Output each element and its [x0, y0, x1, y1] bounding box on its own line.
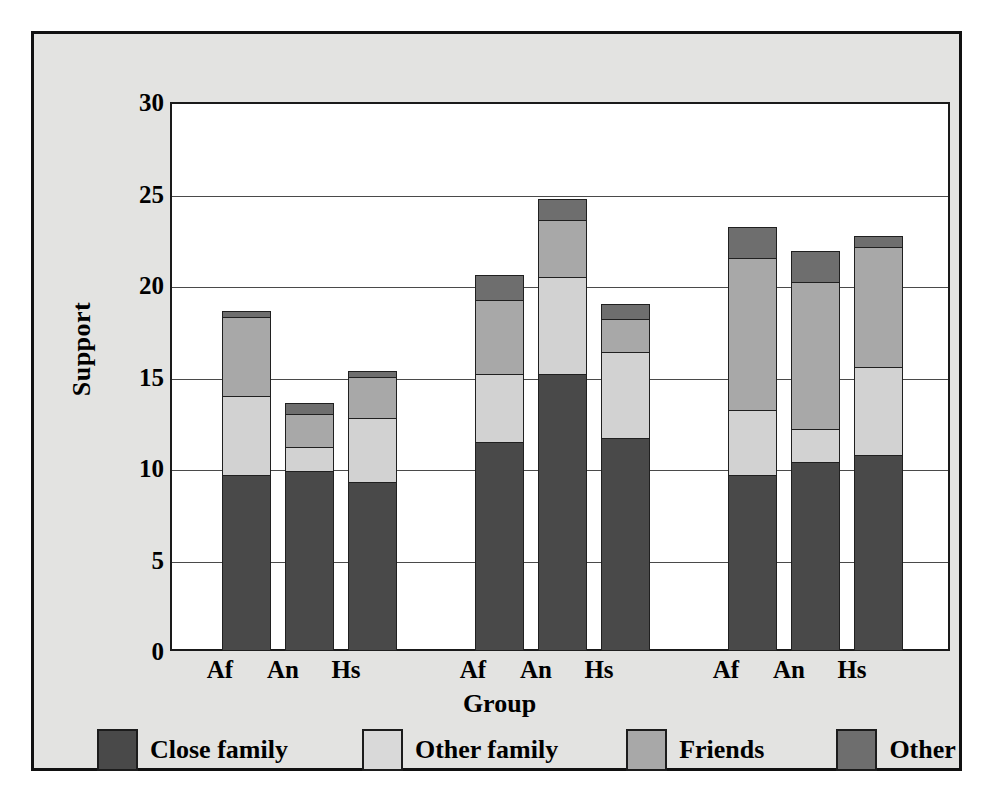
segment-close-family — [538, 374, 587, 650]
segment-other — [475, 275, 524, 302]
segment-close-family — [854, 455, 903, 651]
bar-age14-an[interactable] — [791, 251, 840, 649]
segment-other-family — [601, 352, 650, 440]
legend-label-friends: Friends — [679, 735, 764, 765]
segment-other-family — [475, 374, 524, 444]
x-tick-age7-an: An — [253, 656, 313, 684]
segment-friends — [728, 258, 777, 412]
x-tick-age10-hs: Hs — [569, 656, 629, 684]
bar-age7-an[interactable] — [285, 403, 334, 649]
segment-close-family — [222, 475, 271, 651]
figure-frame: Support 30 25 20 15 10 5 0 Age 7 Age 10 … — [31, 31, 962, 771]
segment-close-family — [285, 471, 334, 650]
segment-friends — [791, 282, 840, 430]
legend-item-friends[interactable]: Friends — [626, 729, 764, 771]
bar-age10-an[interactable] — [538, 199, 587, 649]
legend-swatch-other-icon — [836, 729, 877, 771]
segment-other — [538, 199, 587, 221]
bar-age7-hs[interactable] — [348, 371, 397, 649]
segment-other — [791, 251, 840, 284]
segment-other-family — [348, 418, 397, 484]
legend-label-close-family: Close family — [150, 735, 288, 765]
segment-close-family — [728, 475, 777, 651]
x-tick-age7-hs: Hs — [316, 656, 376, 684]
y-tick-0: 0 — [124, 639, 164, 664]
segment-friends — [538, 220, 587, 279]
y-tick-5: 5 — [124, 548, 164, 573]
plot-area — [170, 102, 950, 651]
bar-age14-af[interactable] — [728, 227, 777, 649]
segment-other-family — [728, 410, 777, 476]
segment-friends — [475, 300, 524, 375]
segment-other-family — [285, 447, 334, 473]
legend-label-other-family: Other family — [415, 735, 558, 765]
y-tick-25: 25 — [124, 182, 164, 207]
x-tick-age10-af: Af — [443, 656, 503, 684]
x-tick-age14-an: An — [759, 656, 819, 684]
segment-friends — [348, 377, 397, 419]
legend-item-other-family[interactable]: Other family — [362, 729, 558, 771]
segment-other-family — [791, 429, 840, 464]
segment-friends — [601, 319, 650, 354]
y-tick-10: 10 — [124, 456, 164, 481]
segment-close-family — [475, 442, 524, 651]
segment-other-family — [538, 277, 587, 376]
y-axis-title: Support — [67, 239, 97, 459]
x-tick-age7-af: Af — [190, 656, 250, 684]
legend-label-other: Other — [889, 735, 955, 765]
x-tick-age10-an: An — [506, 656, 566, 684]
legend-swatch-other-family-icon — [362, 729, 403, 771]
segment-other — [728, 227, 777, 260]
legend-item-other[interactable]: Other — [836, 729, 955, 771]
segment-friends — [222, 317, 271, 398]
x-tick-age14-af: Af — [696, 656, 756, 684]
bar-age10-af[interactable] — [475, 275, 524, 649]
bar-age14-hs[interactable] — [854, 236, 903, 649]
legend: Close family Other family Friends Other — [97, 724, 907, 776]
segment-friends — [854, 247, 903, 368]
y-axis-tick-labels: 30 25 20 15 10 5 0 — [120, 102, 164, 651]
segment-close-family — [348, 482, 397, 650]
y-tick-20: 20 — [124, 273, 164, 298]
bar-age10-hs[interactable] — [601, 304, 650, 649]
legend-swatch-close-family-icon — [97, 729, 138, 771]
y-tick-30: 30 — [124, 90, 164, 115]
segment-other-family — [854, 367, 903, 457]
segment-close-family — [791, 462, 840, 651]
x-tick-age14-hs: Hs — [822, 656, 882, 684]
bar-age7-af[interactable] — [222, 311, 271, 649]
gridline-25 — [172, 196, 948, 197]
y-tick-15: 15 — [124, 365, 164, 390]
segment-friends — [285, 414, 334, 449]
legend-item-close-family[interactable]: Close family — [97, 729, 288, 771]
segment-other-family — [222, 396, 271, 477]
x-axis-title: Group — [34, 689, 965, 719]
legend-swatch-friends-icon — [626, 729, 667, 771]
figure-canvas: Support 30 25 20 15 10 5 0 Age 7 Age 10 … — [0, 0, 995, 801]
segment-close-family — [601, 438, 650, 650]
